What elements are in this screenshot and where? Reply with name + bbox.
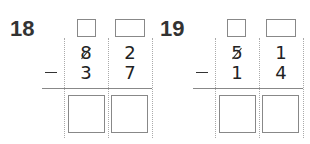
top-ones-digit: 1 xyxy=(261,44,301,62)
bottom-ones-digit: 4 xyxy=(261,64,301,82)
answer-box-ones[interactable] xyxy=(262,95,299,133)
column-divider xyxy=(152,38,153,138)
column-divider xyxy=(303,38,304,138)
minus-sign xyxy=(45,72,57,73)
sum-line xyxy=(193,88,303,89)
top-ones-digit: 2 xyxy=(110,44,150,62)
carry-box-tens[interactable] xyxy=(77,19,96,37)
minus-sign xyxy=(196,72,208,73)
answer-box-tens[interactable] xyxy=(68,95,105,133)
carry-box-ones[interactable] xyxy=(115,19,145,37)
problem-number: 18 xyxy=(10,16,34,42)
answer-box-tens[interactable] xyxy=(219,95,256,133)
bottom-tens-digit: 3 xyxy=(66,64,106,82)
answer-box-ones[interactable] xyxy=(111,95,148,133)
carry-box-ones[interactable] xyxy=(266,19,296,37)
bottom-tens-digit: 1 xyxy=(217,64,257,82)
problem-19: 19 5 1 1 4 xyxy=(155,0,310,144)
problem-number: 19 xyxy=(160,16,184,42)
carry-box-tens[interactable] xyxy=(227,19,246,37)
bottom-ones-digit: 7 xyxy=(110,64,150,82)
problem-18: 18 8 2 3 7 xyxy=(0,0,155,144)
sum-line xyxy=(42,88,152,89)
